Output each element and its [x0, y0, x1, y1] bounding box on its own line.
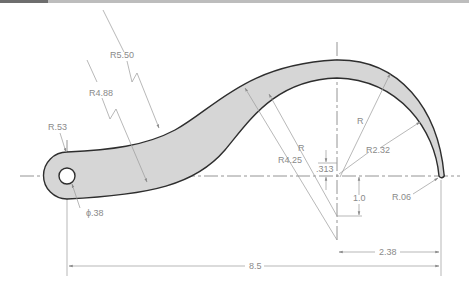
- r006-label: R.06: [392, 192, 411, 202]
- r006-leader: [413, 178, 438, 194]
- r550-leader: [127, 61, 159, 128]
- r232-label: R2.32: [366, 145, 390, 155]
- r053-label: R.53: [48, 122, 67, 132]
- dia038-label: ϕ.38: [86, 208, 104, 218]
- len85-label: 8.5: [249, 261, 262, 271]
- len238-label: 2.38: [379, 247, 397, 257]
- r-upper-leader: [340, 74, 390, 177]
- pivot-hole: [59, 168, 75, 184]
- off313-label: .313: [316, 164, 334, 174]
- r488-label: R4.88: [89, 88, 113, 98]
- r232-leader-a: [339, 152, 369, 174]
- r-upper-label: R: [357, 116, 364, 126]
- r550-label: R5.50: [110, 50, 134, 60]
- hook-part: [43, 60, 444, 199]
- drawing-canvas: R5.50 R4.88 R.53 ϕ.38 R R R4.25 R2.32 .3…: [0, 0, 469, 288]
- r488-leader-top: [87, 60, 97, 82]
- off10-label: 1.0: [353, 193, 366, 203]
- r425-label: R4.25: [278, 155, 302, 165]
- r-inner-label: R: [298, 143, 305, 153]
- r550-leader-top: [103, 10, 124, 52]
- r053-leader: [60, 133, 66, 152]
